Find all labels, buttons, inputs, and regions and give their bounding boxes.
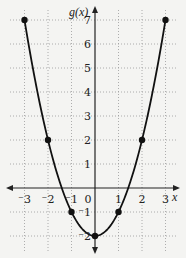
y-tick-label: 5: [84, 62, 91, 75]
data-point: [21, 17, 27, 23]
x-tick-label: 3: [162, 193, 169, 206]
y-axis-arrow-down-icon: [92, 247, 98, 254]
axes: [6, 6, 180, 254]
x-tick-label: ⁻2: [42, 193, 55, 206]
data-point: [115, 209, 121, 215]
y-tick-label: ⁻2: [78, 230, 91, 243]
x-axis-arrow-left-icon: [6, 185, 13, 191]
y-tick-label: 6: [84, 38, 91, 51]
data-point: [92, 233, 98, 239]
grid-lines: [10, 10, 176, 252]
x-tick-label: ⁻1: [65, 193, 78, 206]
data-point: [139, 137, 145, 143]
y-tick-label: 3: [84, 110, 91, 123]
x-tick-label: 1: [115, 193, 122, 206]
x-tick-label: 0: [85, 193, 92, 206]
y-tick-label: 4: [84, 86, 91, 99]
data-point: [45, 137, 51, 143]
x-tick-label: 2: [139, 193, 146, 206]
function-graph: ⁻3⁻2⁻10123 ⁻2⁻11234567 x g(x): [0, 0, 186, 258]
data-point: [162, 17, 168, 23]
y-tick-label: 1: [84, 158, 91, 171]
y-axis-label: g(x): [69, 5, 88, 19]
x-axis-label: x: [171, 190, 178, 204]
x-tick-labels: ⁻3⁻2⁻10123: [18, 193, 169, 206]
y-axis-arrow-up-icon: [92, 6, 98, 13]
y-tick-label: 2: [84, 134, 91, 147]
y-tick-label: ⁻1: [78, 206, 91, 219]
data-point: [68, 209, 74, 215]
y-tick-labels: ⁻2⁻11234567: [78, 14, 91, 243]
x-tick-label: ⁻3: [18, 193, 31, 206]
